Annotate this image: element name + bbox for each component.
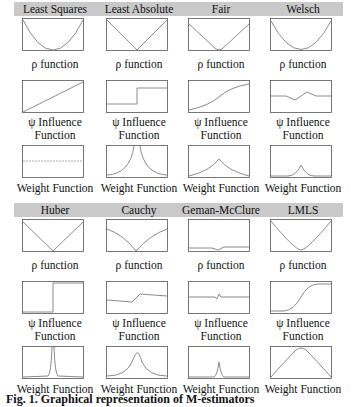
weight-plot bbox=[188, 346, 250, 379]
psi-plot bbox=[106, 80, 168, 113]
rho-plot bbox=[106, 219, 168, 252]
weight-plot bbox=[270, 145, 332, 178]
psi-plot bbox=[188, 281, 250, 314]
weight-label: Weight Function bbox=[258, 383, 348, 396]
psi-label-line1: ψ Influence bbox=[258, 116, 348, 129]
weight-label: Weight Function bbox=[94, 182, 184, 195]
estimator-title: Least Squares bbox=[14, 2, 96, 16]
psi-label-line2: Function bbox=[94, 330, 184, 343]
rho-plot bbox=[188, 18, 250, 51]
psi-plot bbox=[106, 281, 168, 314]
estimator-title: Fair bbox=[180, 2, 262, 16]
rho-plot bbox=[188, 219, 250, 252]
weight-plot bbox=[106, 346, 168, 379]
weight-label: Weight Function bbox=[176, 182, 266, 195]
figure-caption: Fig. 1. Graphical representation of M-es… bbox=[6, 392, 255, 407]
rho-label: ρ function bbox=[10, 58, 100, 71]
psi-label-line1: ψ Influence bbox=[176, 116, 266, 129]
rho-plot bbox=[22, 18, 84, 51]
estimator-title: Cauchy bbox=[98, 203, 180, 217]
psi-label-line1: ψ Influence bbox=[10, 116, 100, 129]
weight-plot bbox=[188, 145, 250, 178]
psi-label-line2: Function bbox=[176, 330, 266, 343]
rho-label: ρ function bbox=[176, 58, 266, 71]
rho-label: ρ function bbox=[10, 259, 100, 272]
rho-label: ρ function bbox=[258, 58, 348, 71]
psi-label-line2: Function bbox=[10, 129, 100, 142]
psi-label-line2: Function bbox=[94, 129, 184, 142]
rho-plot bbox=[270, 219, 332, 252]
psi-plot bbox=[22, 80, 84, 113]
rho-label: ρ function bbox=[176, 259, 266, 272]
estimator-title: Least Absolute bbox=[98, 2, 180, 16]
weight-plot bbox=[106, 145, 168, 178]
psi-plot bbox=[22, 281, 84, 314]
psi-label-line1: ψ Influence bbox=[94, 116, 184, 129]
psi-label-line2: Function bbox=[258, 129, 348, 142]
estimator-title: LMLS bbox=[262, 203, 344, 217]
psi-label-line1: ψ Influence bbox=[94, 317, 184, 330]
psi-label-line1: ψ Influence bbox=[10, 317, 100, 330]
estimator-title: Geman-McClure bbox=[180, 203, 262, 217]
psi-plot bbox=[270, 80, 332, 113]
rho-plot bbox=[22, 219, 84, 252]
weight-plot bbox=[270, 346, 332, 379]
psi-plot bbox=[270, 281, 332, 314]
rho-label: ρ function bbox=[258, 259, 348, 272]
weight-plot bbox=[22, 346, 84, 379]
weight-label: Weight Function bbox=[258, 182, 348, 195]
weight-plot bbox=[22, 145, 84, 178]
psi-label-line1: ψ Influence bbox=[258, 317, 348, 330]
rho-plot bbox=[106, 18, 168, 51]
rho-label: ρ function bbox=[94, 259, 184, 272]
psi-label-line2: Function bbox=[176, 129, 266, 142]
estimator-title: Huber bbox=[14, 203, 96, 217]
rho-label: ρ function bbox=[94, 58, 184, 71]
psi-label-line2: Function bbox=[10, 330, 100, 343]
psi-label-line2: Function bbox=[258, 330, 348, 343]
rho-plot bbox=[270, 18, 332, 51]
psi-label-line1: ψ Influence bbox=[176, 317, 266, 330]
psi-plot bbox=[188, 80, 250, 113]
estimator-title: Welsch bbox=[262, 2, 344, 16]
weight-label: Weight Function bbox=[10, 182, 100, 195]
